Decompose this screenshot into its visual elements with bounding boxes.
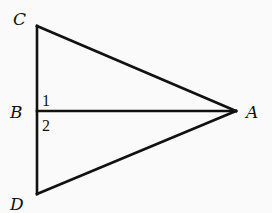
point-label-b: B [9, 102, 23, 122]
angle-label-2: 2 [42, 117, 50, 134]
segment-ca [37, 26, 236, 111]
angle-label-1: 1 [42, 92, 50, 109]
point-label-d: D [9, 194, 24, 213]
point-label-c: C [13, 9, 26, 29]
triangle-diagram: C B D A 1 2 [0, 0, 272, 213]
segment-da [37, 111, 236, 194]
point-label-a: A [244, 102, 258, 122]
